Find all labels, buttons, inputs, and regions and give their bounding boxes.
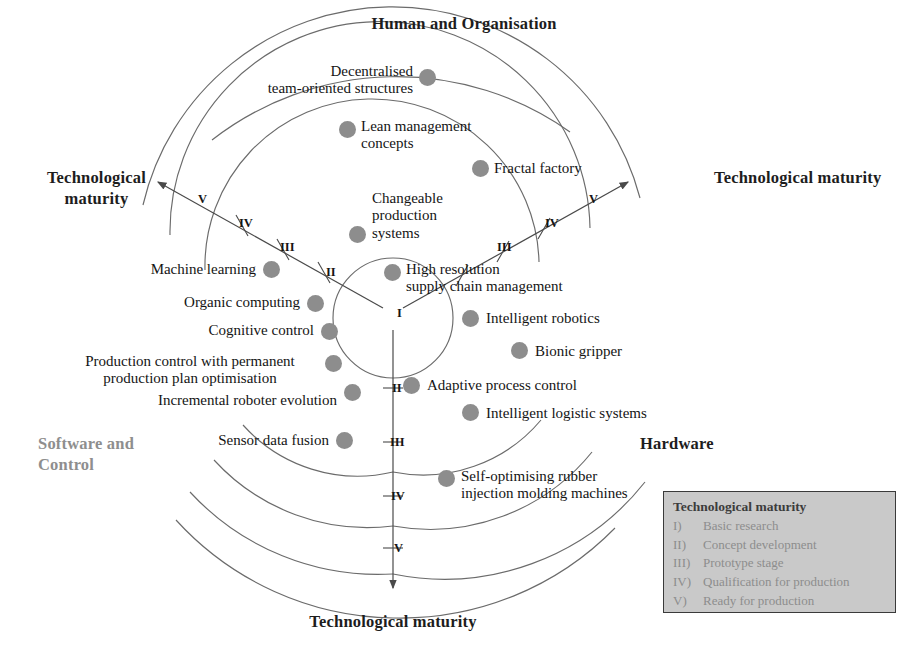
legend-row: III) Prototype stage [673,554,895,573]
legend-row: IV) Qualification for production [673,573,895,592]
item-label-intelligent-logistic: Intelligent logistic systems [486,405,726,422]
item-label-high-resolution: High resolution supply chain management [406,261,626,296]
legend-row: V) Ready for production [673,592,895,611]
legend-row-number: III) [673,554,703,573]
axis-tick-bottom-ii: II [392,381,402,396]
axis-tick-bottom-iii: III [390,435,405,450]
legend-row-text: Concept development [703,536,817,555]
item-label-machine-learning: Machine learning [76,261,256,278]
technology-dot[interactable] [511,342,528,359]
item-label-changeable-production: Changeable production systems [372,190,512,242]
axis-tick-center-i: I [397,306,402,321]
item-label-organic-computing: Organic computing [110,294,300,311]
technology-dot[interactable] [462,404,479,421]
technology-dot[interactable] [419,69,436,86]
heading-hardware: Hardware [640,434,820,455]
technology-dot[interactable] [336,432,353,449]
axis-tick-left-v: V [198,192,207,207]
item-label-decentralised: Decentralised team-oriented structures [158,63,413,98]
maturity-radar-diagram: Human and Organisation Technological mat… [0,0,924,657]
technology-dot[interactable] [344,384,361,401]
legend-row-number: IV) [673,573,703,592]
legend-row-number: II) [673,536,703,555]
legend-row-text: Qualification for production [703,573,850,592]
technology-dot[interactable] [472,160,489,177]
heading-right-axis: Technological maturity [714,168,914,189]
axis-tick-left-ii: II [326,265,336,280]
technology-dot[interactable] [384,264,401,281]
axis-tick-left-iii: III [280,240,295,255]
technology-dot[interactable] [307,295,324,312]
heading-human-organisation: Human and Organisation [249,14,679,35]
technology-dot[interactable] [263,261,280,278]
item-label-adaptive-process-control: Adaptive process control [427,377,657,394]
item-label-cognitive-control: Cognitive control [124,322,314,339]
legend-row-number: V) [673,592,703,611]
axis-tick-right-iv: IV [545,216,559,231]
technology-dot[interactable] [462,310,479,327]
legend-row: I) Basic research [673,517,895,536]
item-label-intelligent-robotics: Intelligent robotics [486,310,686,327]
axis-tick-left-iv: IV [239,216,253,231]
item-label-bionic-gripper: Bionic gripper [535,343,715,360]
axis-tick-bottom-v: V [394,541,403,556]
technology-dot[interactable] [321,323,338,340]
legend-row-number: I) [673,517,703,536]
item-label-production-control: Production control with permanent produc… [62,353,318,388]
item-label-sensor-data-fusion: Sensor data fusion [144,432,329,449]
axis-tick-bottom-iv: IV [391,489,405,504]
item-label-fractal-factory: Fractal factory [494,160,684,177]
technology-dot[interactable] [325,355,342,372]
legend-row-text: Prototype stage [703,554,784,573]
axis-tick-right-v: V [589,192,598,207]
legend-row-text: Ready for production [703,592,814,611]
technology-dot[interactable] [349,226,366,243]
axis-tick-right-iii: III [497,240,512,255]
item-label-lean-management: Lean management concepts [361,118,591,153]
legend-row-text: Basic research [703,517,778,536]
legend-box: Technological maturity I) Basic research… [663,491,896,613]
technology-dot[interactable] [339,121,356,138]
legend-title: Technological maturity [673,499,895,515]
heading-left-axis: Technological maturity [14,168,179,209]
item-label-incremental-roboter: Incremental roboter evolution [92,392,337,409]
technology-dot[interactable] [438,470,455,487]
technology-dot[interactable] [403,377,420,394]
heading-bottom-axis: Technological maturity [243,612,543,633]
legend-row: II) Concept development [673,536,895,555]
